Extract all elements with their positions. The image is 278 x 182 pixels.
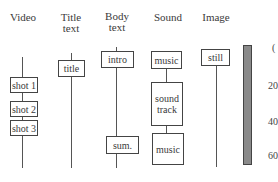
tick-60: 60	[268, 150, 278, 161]
video-header: Video	[4, 12, 42, 23]
tick-40: 40	[268, 116, 278, 127]
image-header: Image	[198, 12, 234, 23]
clip-sum: sum.	[106, 136, 139, 154]
clip-shot-2: shot 2	[10, 101, 38, 117]
title-text-header-line2: text	[54, 23, 88, 34]
clip-music-2: music	[152, 133, 184, 165]
timescale-bar	[243, 45, 252, 165]
tick-0: (	[272, 42, 275, 53]
body-text-header: Body text	[98, 11, 136, 33]
clip-shot-3: shot 3	[10, 120, 38, 136]
clip-title: title	[58, 60, 85, 77]
clip-music-1: music	[151, 51, 182, 69]
clip-still: still	[201, 49, 230, 66]
clip-sound-track: sound track	[151, 82, 183, 126]
tick-20: 20	[268, 80, 278, 91]
clip-intro: intro	[101, 51, 134, 68]
body-text-header-line2: text	[98, 22, 136, 33]
sound-header: Sound	[150, 12, 186, 23]
image-timeline-line	[216, 65, 217, 167]
title-text-header: Title text	[54, 12, 88, 34]
clip-shot-1: shot 1	[10, 77, 38, 93]
